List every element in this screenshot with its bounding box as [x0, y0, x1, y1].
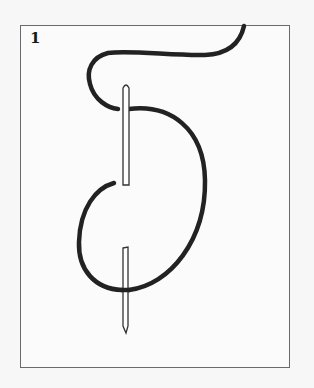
- thread: [79, 26, 244, 290]
- stitch-illustration: [0, 0, 314, 388]
- thread-top-tail: [89, 26, 244, 109]
- thread-left-loop: [79, 183, 122, 290]
- needle-upper: [123, 85, 129, 185]
- thread-right-loop: [129, 108, 205, 290]
